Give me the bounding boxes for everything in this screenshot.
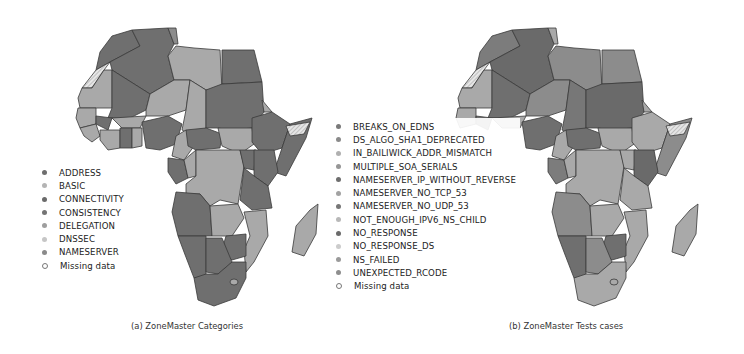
- legend-item: BREAKS_ON_EDNS: [332, 120, 516, 133]
- legend-label: DELEGATION: [59, 221, 115, 231]
- circle-marker-icon: [336, 204, 341, 209]
- circle-marker-icon: [42, 250, 47, 255]
- circle-marker-icon: [42, 183, 47, 188]
- circle-marker-icon: [42, 170, 47, 175]
- legend-item: DS_ALGO_SHA1_DEPRECATED: [332, 133, 516, 146]
- legend-label: Missing data: [60, 261, 115, 271]
- legend-label: CONSISTENCY: [59, 208, 121, 218]
- legend-item: NS_FAILED: [332, 253, 516, 266]
- legend-categories: ADDRESSBASICCONNECTIVITYCONSISTENCYDELEG…: [34, 164, 128, 274]
- legend-label: IN_BAILIWICK_ADDR_MISMATCH: [353, 148, 492, 158]
- circle-marker-icon: [336, 191, 341, 196]
- legend-label: NAMESERVER_NO_TCP_53: [353, 188, 467, 198]
- legend-item: Missing data: [332, 280, 516, 293]
- caption-a: (a) ZoneMaster Categories: [131, 321, 243, 331]
- legend-item: NAMESERVER: [38, 246, 124, 259]
- legend-item: NAMESERVER_NO_UDP_53: [332, 200, 516, 213]
- legend-label: BREAKS_ON_EDNS: [353, 122, 434, 132]
- legend-label: NAMESERVER_NO_UDP_53: [353, 201, 469, 211]
- legend-label: NO_RESPONSE_DS: [353, 241, 434, 251]
- hollow-circle-icon: [336, 283, 342, 289]
- circle-marker-icon: [336, 164, 341, 169]
- legend-item: NOT_ENOUGH_IPV6_NS_CHILD: [332, 213, 516, 226]
- circle-marker-icon: [336, 137, 341, 142]
- panel-zonemaster-test-cases: BREAKS_ON_EDNSDS_ALGO_SHA1_DEPRECATEDIN_…: [372, 0, 744, 354]
- legend-label: NAMESERVER_IP_WITHOUT_REVERSE: [353, 175, 516, 185]
- legend-item: NAMESERVER_IP_WITHOUT_REVERSE: [332, 173, 516, 186]
- circle-marker-icon: [336, 177, 341, 182]
- legend-label: NOT_ENOUGH_IPV6_NS_CHILD: [353, 215, 486, 225]
- legend-item: NO_RESPONSE: [332, 226, 516, 239]
- legend-item: BASIC: [38, 179, 124, 192]
- caption-b: (b) ZoneMaster Tests cases: [509, 321, 623, 331]
- legend-label: Missing data: [354, 281, 409, 291]
- circle-marker-icon: [336, 151, 341, 156]
- circle-marker-icon: [42, 223, 47, 228]
- legend-item: CONNECTIVITY: [38, 193, 124, 206]
- circle-marker-icon: [42, 237, 47, 242]
- legend-label: BASIC: [59, 181, 85, 191]
- legend-label: NO_RESPONSE: [353, 228, 418, 238]
- circle-marker-icon: [42, 210, 47, 215]
- legend-item: Missing data: [38, 259, 124, 272]
- legend-item: MULTIPLE_SOA_SERIALS: [332, 160, 516, 173]
- legend-item: NO_RESPONSE_DS: [332, 240, 516, 253]
- circle-marker-icon: [336, 231, 341, 236]
- legend-item: DELEGATION: [38, 219, 124, 232]
- circle-marker-icon: [336, 217, 341, 222]
- legend-label: CONNECTIVITY: [59, 194, 124, 204]
- legend-label: DS_ALGO_SHA1_DEPRECATED: [353, 135, 485, 145]
- hollow-circle-icon: [42, 263, 48, 269]
- circle-marker-icon: [336, 257, 341, 262]
- legend-label: MULTIPLE_SOA_SERIALS: [353, 162, 458, 172]
- circle-marker-icon: [336, 124, 341, 129]
- legend-test-cases: BREAKS_ON_EDNSDS_ALGO_SHA1_DEPRECATEDIN_…: [328, 118, 520, 295]
- circle-marker-icon: [336, 244, 341, 249]
- legend-label: NAMESERVER: [59, 247, 119, 257]
- legend-item: CONSISTENCY: [38, 206, 124, 219]
- circle-marker-icon: [336, 270, 341, 275]
- legend-label: NS_FAILED: [353, 255, 399, 265]
- legend-item: IN_BAILIWICK_ADDR_MISMATCH: [332, 147, 516, 160]
- legend-item: UNEXPECTED_RCODE: [332, 266, 516, 279]
- legend-label: ADDRESS: [59, 168, 101, 178]
- legend-label: UNEXPECTED_RCODE: [353, 268, 447, 278]
- legend-item: ADDRESS: [38, 166, 124, 179]
- legend-label: DNSSEC: [59, 234, 95, 244]
- panel-zonemaster-categories: ADDRESSBASICCONNECTIVITYCONSISTENCYDELEG…: [0, 0, 372, 354]
- circle-marker-icon: [42, 197, 47, 202]
- legend-item: DNSSEC: [38, 232, 124, 245]
- legend-item: NAMESERVER_NO_TCP_53: [332, 186, 516, 199]
